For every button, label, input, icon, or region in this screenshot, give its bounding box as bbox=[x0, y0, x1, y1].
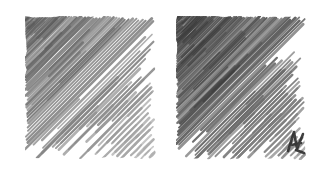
left-hatching-square bbox=[25, 16, 156, 159]
artboard bbox=[0, 0, 326, 175]
right-hatching-square bbox=[176, 16, 306, 160]
